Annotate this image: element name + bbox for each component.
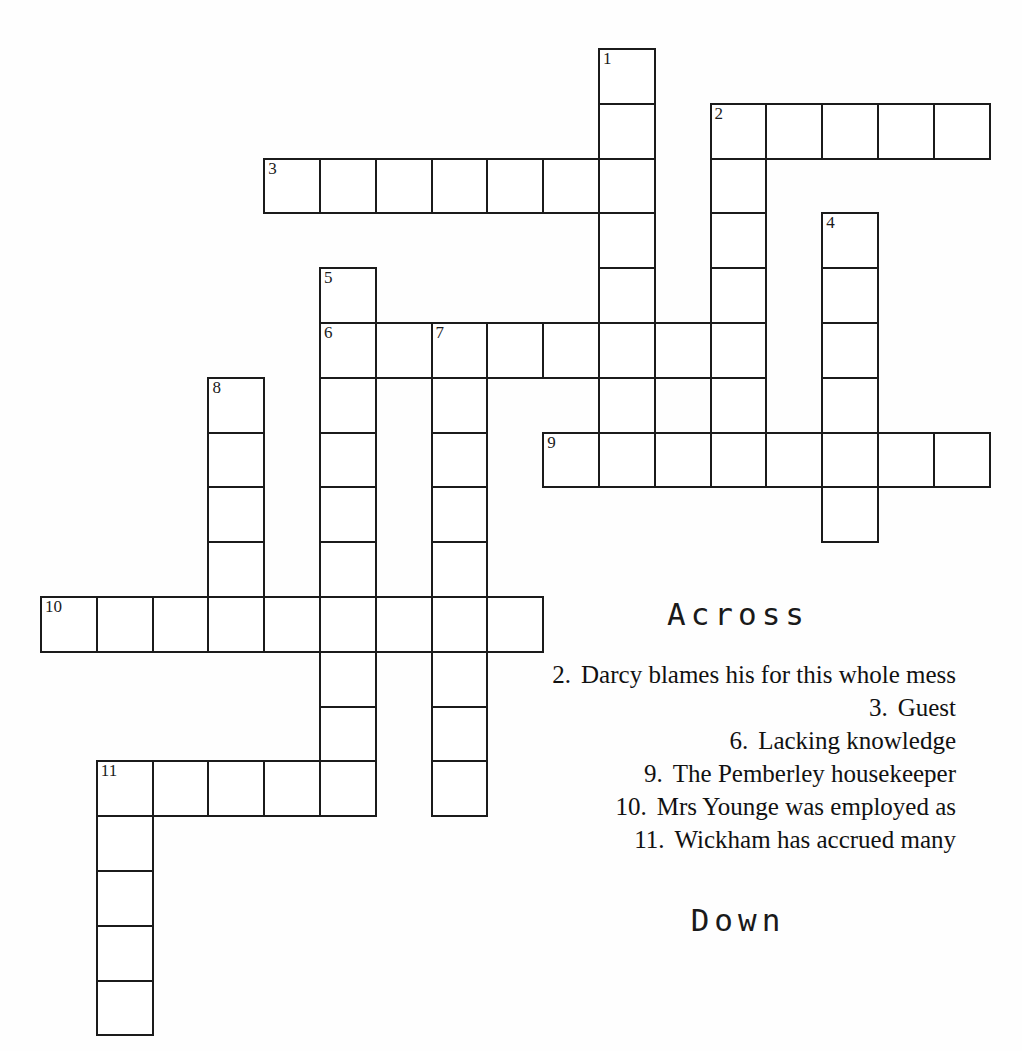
crossword-cell[interactable] bbox=[96, 870, 154, 927]
cell-number: 9 bbox=[547, 433, 556, 452]
crossword-cell[interactable] bbox=[821, 322, 879, 379]
crossword-cell[interactable] bbox=[96, 815, 154, 872]
crossword-cell[interactable] bbox=[431, 651, 489, 708]
crossword-cell[interactable] bbox=[207, 486, 265, 543]
crossword-cell[interactable]: 2 bbox=[710, 103, 768, 160]
crossword-cell[interactable]: 9 bbox=[542, 432, 600, 489]
crossword-cell[interactable] bbox=[486, 158, 544, 215]
crossword-cell[interactable] bbox=[542, 158, 600, 215]
crossword-cell[interactable] bbox=[319, 541, 377, 598]
clue-text: Lacking knowledge bbox=[758, 727, 956, 754]
across-clue-list: 2.Darcy blames his for this whole mess3.… bbox=[520, 658, 956, 856]
crossword-cell[interactable] bbox=[375, 158, 433, 215]
clue-text: Darcy blames his for this whole mess bbox=[581, 661, 956, 688]
crossword-cell[interactable] bbox=[654, 322, 712, 379]
crossword-cell[interactable] bbox=[207, 432, 265, 489]
crossword-cell[interactable] bbox=[152, 596, 210, 653]
crossword-cell[interactable]: 1 bbox=[598, 48, 656, 105]
crossword-cell[interactable]: 5 bbox=[319, 267, 377, 324]
crossword-cell[interactable] bbox=[710, 377, 768, 434]
crossword-cell[interactable] bbox=[319, 596, 377, 653]
across-clue-item: 10.Mrs Younge was employed as bbox=[520, 790, 956, 823]
crossword-cell[interactable] bbox=[598, 322, 656, 379]
crossword-cell[interactable] bbox=[207, 541, 265, 598]
crossword-cell[interactable] bbox=[710, 432, 768, 489]
cell-number: 10 bbox=[45, 597, 62, 616]
crossword-cell[interactable] bbox=[431, 706, 489, 763]
crossword-cell[interactable] bbox=[710, 322, 768, 379]
crossword-cell[interactable] bbox=[431, 596, 489, 653]
crossword-cell[interactable] bbox=[431, 158, 489, 215]
across-heading: Across bbox=[520, 596, 956, 632]
crossword-cell[interactable]: 6 bbox=[319, 322, 377, 379]
crossword-cell[interactable]: 4 bbox=[821, 212, 879, 269]
crossword-cell[interactable] bbox=[598, 158, 656, 215]
crossword-cell[interactable] bbox=[877, 432, 935, 489]
across-clue-item: 9.The Pemberley housekeeper bbox=[520, 757, 956, 790]
clue-number: 11. bbox=[634, 826, 664, 853]
crossword-cell[interactable]: 3 bbox=[263, 158, 321, 215]
crossword-cell[interactable] bbox=[319, 158, 377, 215]
crossword-cell[interactable] bbox=[263, 760, 321, 817]
crossword-cell[interactable] bbox=[542, 322, 600, 379]
crossword-cell[interactable] bbox=[96, 596, 154, 653]
crossword-cell[interactable] bbox=[96, 925, 154, 982]
crossword-cell[interactable] bbox=[598, 103, 656, 160]
crossword-cell[interactable] bbox=[96, 980, 154, 1037]
clue-number: 9. bbox=[644, 760, 663, 787]
crossword-cell[interactable] bbox=[431, 432, 489, 489]
crossword-cell[interactable] bbox=[821, 103, 879, 160]
crossword-cell[interactable] bbox=[710, 212, 768, 269]
crossword-cell[interactable] bbox=[319, 377, 377, 434]
crossword-cell[interactable] bbox=[933, 103, 991, 160]
cell-number: 4 bbox=[826, 213, 835, 232]
crossword-cell[interactable]: 8 bbox=[207, 377, 265, 434]
cell-number: 1 bbox=[603, 49, 612, 68]
across-clue-item: 2.Darcy blames his for this whole mess bbox=[520, 658, 956, 691]
crossword-cell[interactable]: 10 bbox=[40, 596, 98, 653]
crossword-cell[interactable] bbox=[877, 103, 935, 160]
clue-number: 2. bbox=[552, 661, 571, 688]
crossword-cell[interactable] bbox=[319, 651, 377, 708]
crossword-cell[interactable] bbox=[207, 596, 265, 653]
crossword-cell[interactable] bbox=[263, 596, 321, 653]
crossword-cell[interactable] bbox=[375, 596, 433, 653]
crossword-cell[interactable] bbox=[431, 377, 489, 434]
crossword-cell[interactable] bbox=[598, 267, 656, 324]
clue-text: The Pemberley housekeeper bbox=[673, 760, 956, 787]
crossword-cell[interactable] bbox=[319, 486, 377, 543]
crossword-cell[interactable] bbox=[654, 432, 712, 489]
cell-number: 6 bbox=[324, 323, 333, 342]
crossword-cell[interactable] bbox=[765, 103, 823, 160]
clue-number: 6. bbox=[729, 727, 748, 754]
crossword-cell[interactable] bbox=[821, 432, 879, 489]
crossword-cell[interactable]: 7 bbox=[431, 322, 489, 379]
cell-number: 8 bbox=[212, 378, 221, 397]
crossword-cell[interactable] bbox=[598, 212, 656, 269]
crossword-cell[interactable] bbox=[152, 760, 210, 817]
crossword-cell[interactable] bbox=[319, 432, 377, 489]
crossword-cell[interactable] bbox=[431, 486, 489, 543]
crossword-cell[interactable] bbox=[821, 377, 879, 434]
across-clue-item: 6.Lacking knowledge bbox=[520, 724, 956, 757]
crossword-cell[interactable] bbox=[933, 432, 991, 489]
crossword-cell[interactable] bbox=[431, 541, 489, 598]
crossword-cell[interactable] bbox=[319, 760, 377, 817]
crossword-cell[interactable] bbox=[821, 486, 879, 543]
crossword-cell[interactable] bbox=[821, 267, 879, 324]
crossword-cell[interactable] bbox=[375, 322, 433, 379]
cell-number: 5 bbox=[324, 268, 333, 287]
across-clue-item: 11.Wickham has accrued many bbox=[520, 823, 956, 856]
crossword-cell[interactable] bbox=[598, 377, 656, 434]
crossword-cell[interactable] bbox=[710, 158, 768, 215]
down-heading: Down bbox=[520, 902, 956, 938]
crossword-cell[interactable] bbox=[598, 432, 656, 489]
crossword-cell[interactable]: 11 bbox=[96, 760, 154, 817]
crossword-cell[interactable] bbox=[431, 760, 489, 817]
crossword-cell[interactable] bbox=[319, 706, 377, 763]
cell-number: 2 bbox=[715, 104, 724, 123]
crossword-cell[interactable] bbox=[710, 267, 768, 324]
crossword-cell[interactable] bbox=[486, 322, 544, 379]
crossword-cell[interactable] bbox=[207, 760, 265, 817]
crossword-cell[interactable] bbox=[765, 432, 823, 489]
